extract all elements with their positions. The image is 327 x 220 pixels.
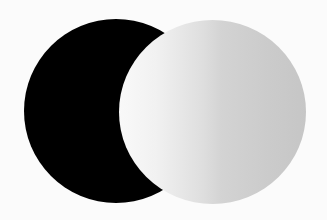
- light-circle: [119, 20, 306, 204]
- illustration-canvas: [0, 0, 327, 220]
